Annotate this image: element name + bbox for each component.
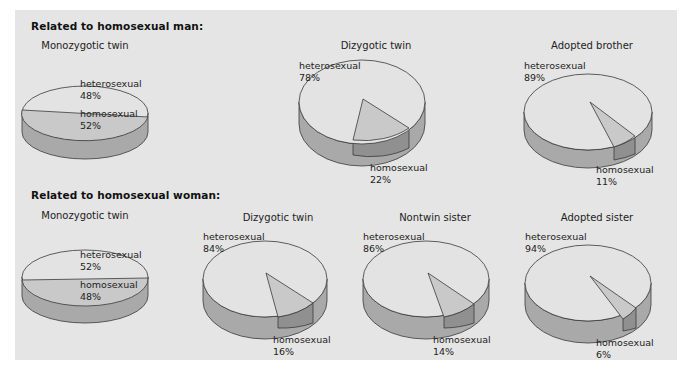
label-man-dz-homo: homosexual 22% [370,162,428,186]
label-pct: 52% [80,120,138,132]
pie-title-woman-monozygotic: Monozygotic twin [35,210,135,221]
pie-man-adopted-brother [524,74,652,168]
label-pct: 48% [80,90,142,102]
label-pct: 14% [433,346,491,358]
label-text: homosexual [370,162,428,174]
pie-title-woman-nontwin-sister: Nontwin sister [385,212,485,223]
label-pct: 78% [299,72,361,84]
label-pct: 16% [273,346,331,358]
label-text: heterosexual [203,231,265,243]
section-title-man: Related to homosexual man: [31,20,203,32]
pie-woman-dizygotic [203,241,327,339]
label-man-ab-homo: homosexual 11% [596,164,654,188]
label-pct: 22% [370,174,428,186]
pie-title-woman-adopted-sister: Adopted sister [547,212,647,223]
label-pct: 11% [596,176,654,188]
label-text: homosexual [596,164,654,176]
label-pct: 48% [80,291,138,303]
label-text: homosexual [80,108,138,120]
pie-woman-adopted-sister [525,245,651,343]
label-woman-mz-hetero: heterosexual 52% [80,249,142,273]
label-woman-ns-homo: homosexual 14% [433,334,491,358]
label-man-dz-hetero: heterosexual 78% [299,60,361,84]
label-man-mz-hetero: heterosexual 48% [80,78,142,102]
label-woman-dz-homo: homosexual 16% [273,334,331,358]
label-text: heterosexual [80,78,142,90]
label-man-ab-hetero: heterosexual 89% [524,60,586,84]
label-text: heterosexual [524,60,586,72]
pie-title-man-monozygotic: Monozygotic twin [35,40,135,51]
label-pct: 6% [596,349,654,361]
label-text: heterosexual [363,231,425,243]
label-pct: 84% [203,243,265,255]
label-text: heterosexual [299,60,361,72]
pie-title-woman-dizygotic: Dizygotic twin [228,212,328,223]
label-woman-as-homo: homosexual 6% [596,337,654,361]
section-title-woman: Related to homosexual woman: [31,189,220,201]
label-text: homosexual [80,279,138,291]
label-woman-ns-hetero: heterosexual 86% [363,231,425,255]
label-text: homosexual [596,337,654,349]
label-woman-mz-homo: homosexual 48% [80,279,138,303]
pie-woman-nontwin-sister [363,241,489,339]
label-pct: 89% [524,72,586,84]
label-man-mz-homo: homosexual 52% [80,108,138,132]
label-woman-as-hetero: heterosexual 94% [525,231,587,255]
label-text: homosexual [433,334,491,346]
label-pct: 86% [363,243,425,255]
label-pct: 52% [80,261,142,273]
pie-title-man-adopted-brother: Adopted brother [537,40,647,51]
pie-title-man-dizygotic: Dizygotic twin [326,40,426,51]
label-text: heterosexual [80,249,142,261]
label-text: heterosexual [525,231,587,243]
label-woman-dz-hetero: heterosexual 84% [203,231,265,255]
label-text: homosexual [273,334,331,346]
label-pct: 94% [525,243,587,255]
